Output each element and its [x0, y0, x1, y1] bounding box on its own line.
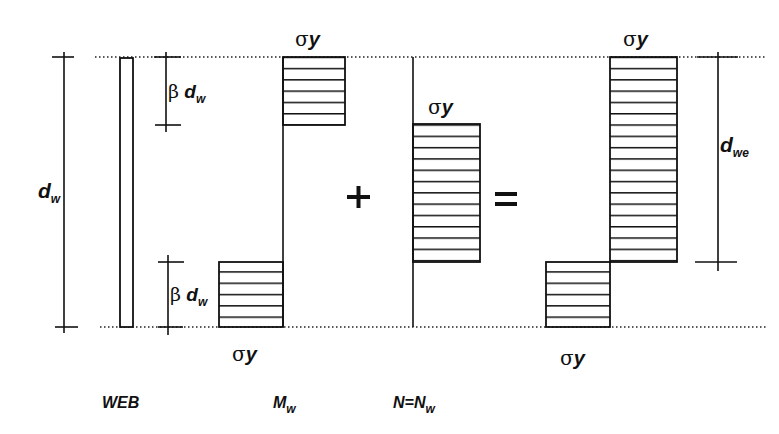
sigma-y-axial: σy — [428, 97, 453, 117]
web-caption: WEB — [102, 395, 139, 411]
bending-stress-block — [219, 57, 345, 327]
diagram-canvas — [0, 0, 779, 434]
beta-dw-lower-label: β dw — [170, 285, 207, 308]
dw-label: dw — [38, 180, 60, 205]
sigma-y-combined-top: σy — [623, 29, 648, 49]
moment-caption: Mw — [273, 395, 296, 415]
sigma-y-bending-top: σy — [295, 29, 320, 49]
equals-operator — [495, 194, 517, 204]
plus-operator — [347, 186, 370, 208]
beta-dw-upper-label: β dw — [168, 82, 205, 105]
combined-stress-block — [546, 57, 677, 327]
sigma-y-combined-bottom: σy — [560, 348, 585, 368]
dwe-dimension-line — [695, 52, 738, 271]
axial-caption: N=Nw — [393, 395, 435, 415]
sigma-y-bending-bottom: σy — [232, 344, 257, 364]
web-plate — [120, 58, 133, 327]
dwe-label: dwe — [720, 134, 749, 159]
